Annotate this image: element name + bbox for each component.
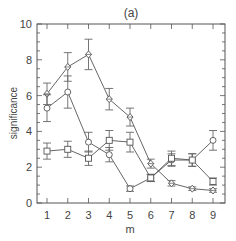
data-point — [86, 139, 92, 145]
data-point — [44, 105, 50, 111]
y-tick-label: 10 — [20, 18, 32, 30]
data-point — [189, 157, 195, 163]
x-tick-label: 2 — [65, 209, 71, 221]
data-point — [169, 155, 175, 161]
data-point — [210, 137, 216, 143]
data-point — [106, 152, 112, 158]
y-tick-label: 0 — [26, 197, 32, 209]
x-axis-label: m — [125, 223, 134, 235]
x-tick-label: 9 — [210, 209, 216, 221]
x-tick-label: 3 — [85, 209, 91, 221]
y-tick-label: 2 — [26, 161, 32, 173]
data-point — [44, 148, 50, 154]
x-tick-label: 8 — [189, 209, 195, 221]
data-point — [210, 179, 216, 185]
x-tick-label: 6 — [148, 209, 154, 221]
data-point — [65, 146, 71, 152]
y-tick-label: 8 — [26, 54, 32, 66]
data-point — [65, 89, 71, 95]
x-tick-label: 7 — [168, 209, 174, 221]
x-tick-label: 4 — [106, 209, 112, 221]
series-square — [43, 131, 217, 186]
y-tick-label: 6 — [26, 90, 32, 102]
data-point — [127, 139, 133, 145]
series-diamond — [43, 39, 217, 194]
chart: (a) 0246810123456789 m significance — [0, 0, 236, 241]
plot-frame — [37, 24, 225, 203]
data-point — [127, 186, 133, 192]
data-point — [106, 137, 112, 143]
y-tick-label: 4 — [26, 125, 32, 137]
data-point — [86, 155, 92, 161]
x-tick-label: 5 — [127, 209, 133, 221]
chart-title: (a) — [124, 6, 139, 20]
data-point — [148, 175, 154, 181]
series-group — [43, 39, 217, 194]
y-axis-label: significance — [8, 86, 19, 139]
x-tick-label: 1 — [44, 209, 50, 221]
